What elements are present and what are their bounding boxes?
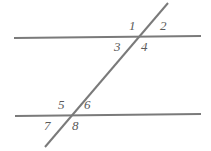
angle-label-6: 6 <box>84 98 91 111</box>
angle-label-7: 7 <box>44 119 51 132</box>
angle-label-2: 2 <box>160 19 167 32</box>
angle-label-8: 8 <box>72 119 79 132</box>
angle-label-1: 1 <box>129 19 136 32</box>
bottom-parallel-line <box>15 114 201 116</box>
angle-label-3: 3 <box>114 40 121 53</box>
top-parallel-line <box>14 36 201 38</box>
transversal-line <box>45 3 168 147</box>
geometry-figure: 1 2 3 4 5 6 7 8 <box>0 0 211 151</box>
angle-label-5: 5 <box>58 98 65 111</box>
geometry-canvas <box>0 0 211 151</box>
angle-label-4: 4 <box>141 40 148 53</box>
